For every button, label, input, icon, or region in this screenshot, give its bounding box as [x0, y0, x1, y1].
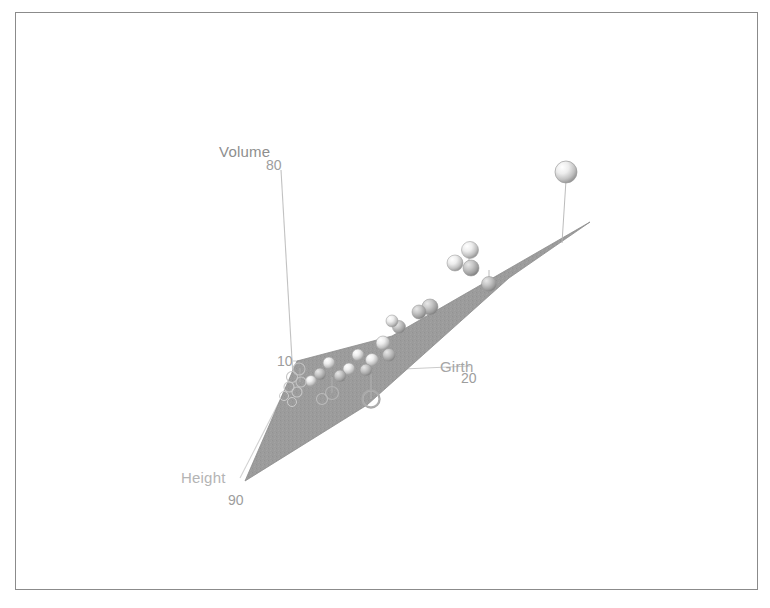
- data-point-sphere: [463, 260, 479, 276]
- data-points: [280, 161, 578, 408]
- axis-label-height: Height: [181, 469, 226, 486]
- figure-root: Volume 80 10 Girth 20 Height 90: [0, 0, 770, 608]
- data-point-sphere: [323, 357, 335, 369]
- axis-tick-volume-10: 10: [277, 353, 293, 369]
- data-point-sphere: [383, 349, 396, 362]
- axis-label-volume: Volume: [219, 143, 270, 160]
- drop-line: [562, 180, 566, 243]
- data-point-sphere: [555, 161, 577, 183]
- data-point-sphere: [386, 315, 398, 327]
- data-point-sphere: [482, 277, 497, 292]
- axis-tick-volume-80: 80: [266, 157, 282, 173]
- regression-plane-surface: [245, 222, 590, 481]
- axis-line-volume: [281, 170, 293, 377]
- regression-plane: [245, 222, 590, 481]
- data-point-sphere: [306, 376, 317, 387]
- data-point-sphere: [334, 370, 346, 382]
- data-point-sphere: [412, 305, 426, 319]
- scatter3d-canvas: [0, 0, 770, 608]
- axis-tick-height-90: 90: [228, 492, 244, 508]
- axis-tick-girth-20: 20: [461, 370, 477, 386]
- data-point-sphere: [462, 242, 479, 259]
- caption-strip: [18, 597, 748, 608]
- data-point-sphere: [376, 336, 390, 350]
- data-point-sphere: [360, 364, 372, 376]
- data-point-sphere: [352, 349, 364, 361]
- data-point-sphere: [447, 255, 463, 271]
